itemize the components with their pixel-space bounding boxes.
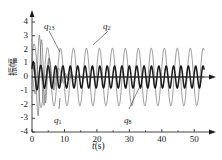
y-tick-label: 3 [12,31,28,40]
series-q1 [32,35,204,106]
curve-label-q8: q8 [124,116,132,125]
y-tick-label: 4 [12,17,28,26]
curves-group [32,35,204,116]
curve-label-subscript: 1 [59,119,62,125]
x-tick-label: 10 [55,135,73,144]
x-tick-label: 0 [23,135,41,144]
x-tick-label: 40 [153,135,171,144]
y-tick-label: -2 [12,100,28,109]
y-tick-label: -1 [12,86,28,95]
curve-label-q1: q1 [54,116,62,125]
leader-line-q13 [49,31,60,52]
curve-label-q2: q2 [103,22,111,31]
x-tick-label: 30 [120,135,138,144]
figure-container: 43210-1-2-3-4 01020304050 振幅 t(s) q13q2q… [0,0,222,160]
x-axis-label: t(s) [92,141,105,151]
x-tick-label: 50 [185,135,203,144]
curve-label-subscript: 2 [108,25,111,31]
leader-line-q2 [93,31,108,45]
x-axis-label-unit: (s) [95,141,105,151]
curve-label-q13: q13 [44,22,55,31]
y-axis-label: 振幅 [6,48,19,86]
curve-label-subscript: 13 [49,25,55,31]
curve-label-subscript: 8 [129,119,132,125]
y-tick-label: -3 [12,113,28,122]
leader-line-q1 [59,98,60,109]
